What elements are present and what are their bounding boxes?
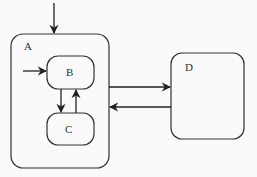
state-d: D [171, 53, 244, 139]
statechart-diagram: A B C D [0, 0, 257, 177]
state-a: A [11, 34, 109, 168]
state-a-label: A [24, 40, 32, 52]
state-c-label: C [65, 123, 72, 135]
state-b-label: B [66, 66, 73, 78]
state-c: C [47, 113, 94, 145]
state-b: B [47, 56, 94, 89]
state-d-label: D [185, 61, 193, 73]
